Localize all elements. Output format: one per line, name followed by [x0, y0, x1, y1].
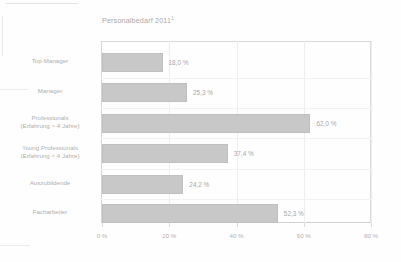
category-label: Facharbeiter	[4, 208, 96, 216]
row-band-5	[101, 199, 371, 200]
chart-title-text: Personalbedarf 2011	[102, 16, 171, 25]
bar	[102, 83, 187, 102]
chart-screenshot: Personalbedarf 20111 Top-ManagerManagerP…	[0, 0, 401, 262]
x-tick-mark-0	[102, 223, 103, 227]
x-tick-label-60: 60 %	[297, 232, 311, 239]
category-label: Top-Manager	[4, 57, 96, 65]
scan-artifact-bottom	[0, 245, 30, 246]
bar-value-label: 18,0 %	[169, 59, 189, 66]
scan-artifact-top	[6, 3, 78, 4]
x-tick-mark-20	[169, 223, 170, 227]
category-label: Manager	[4, 87, 96, 95]
row-band-2	[101, 108, 371, 109]
gridline-80	[371, 41, 372, 223]
row-band-4	[101, 169, 371, 170]
bar	[102, 53, 163, 72]
category-label: Auszubildende	[4, 179, 96, 187]
row-band-3	[101, 138, 371, 139]
bar	[102, 114, 310, 133]
bar	[102, 204, 278, 223]
x-tick-label-20: 20 %	[162, 232, 176, 239]
x-tick-label-0: 0 %	[97, 232, 108, 239]
scan-artifact-left	[2, 16, 3, 56]
bar-value-label: 25,3 %	[193, 89, 213, 96]
bar-value-label: 24,2 %	[189, 181, 209, 188]
chart-title-footnote: 1	[171, 15, 174, 21]
x-tick-mark-80	[371, 223, 372, 227]
chart-title: Personalbedarf 20111	[102, 15, 174, 25]
x-tick-mark-60	[304, 223, 305, 227]
category-label: Young Professionals (Erfahrung < 4 Jahre…	[4, 144, 96, 160]
bar-value-label: 62,0 %	[316, 120, 336, 127]
bar	[102, 144, 228, 163]
x-tick-label-40: 40 %	[229, 232, 243, 239]
category-label: Professionals (Erfahrung > 4 Jahre)	[4, 114, 96, 130]
bar	[102, 175, 183, 194]
bar-value-label: 37,4 %	[234, 150, 254, 157]
bar-value-label: 52,3 %	[284, 210, 304, 217]
x-tick-label-80: 80 %	[364, 232, 378, 239]
row-band-1	[101, 78, 371, 79]
x-tick-mark-40	[237, 223, 238, 227]
